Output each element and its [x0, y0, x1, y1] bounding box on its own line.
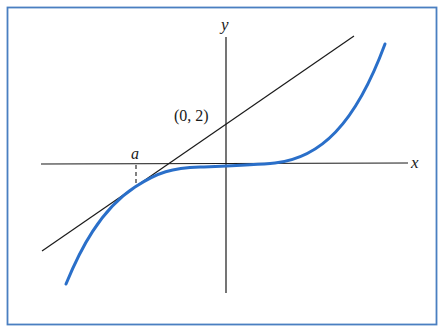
tangent-point-label-a: a — [131, 145, 139, 162]
figure-frame: y x (0, 2) a — [0, 0, 439, 329]
tangent-line — [42, 36, 354, 251]
x-axis-label: x — [410, 153, 419, 172]
x-axis — [41, 163, 408, 164]
graph-canvas: y x (0, 2) a — [0, 0, 439, 329]
y-axis-label: y — [219, 15, 229, 34]
point-label-0-2: (0, 2) — [174, 107, 209, 125]
